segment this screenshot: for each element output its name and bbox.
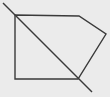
pentagon-shape <box>15 15 106 79</box>
geometry-figure <box>0 0 110 97</box>
diagram-canvas <box>0 0 110 97</box>
